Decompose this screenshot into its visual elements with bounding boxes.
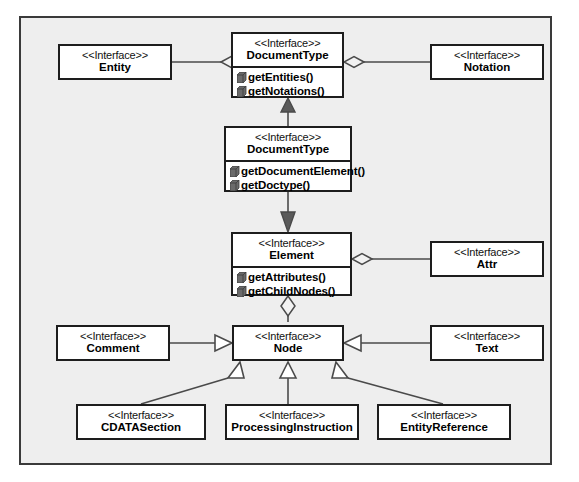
- operations-compartment-document: getDocumentElement() getDoctype(): [226, 162, 350, 196]
- operation-label: getDoctype(): [241, 179, 310, 193]
- class-box-entity[interactable]: <<Interface>> Entity: [58, 44, 172, 80]
- stereotype-label: <<Interface>>: [436, 246, 538, 258]
- method-box-icon: [237, 86, 247, 97]
- operation-row[interactable]: getChildNodes(): [237, 285, 348, 299]
- method-box-icon: [237, 286, 247, 297]
- class-header-processinginstruction: <<Interface>> ProcessingInstruction: [227, 406, 357, 438]
- stereotype-label: <<Interface>>: [383, 409, 505, 421]
- class-name-label: Attr: [436, 258, 538, 271]
- stereotype-label: <<Interface>>: [237, 237, 346, 249]
- class-header-notation: <<Interface>> Notation: [432, 46, 542, 78]
- class-header-entityreference: <<Interface>> EntityReference: [379, 406, 509, 438]
- class-name-label: Node: [238, 342, 338, 355]
- class-name-label: Entity: [64, 61, 166, 74]
- class-header-element: <<Interface>> Element: [233, 234, 350, 266]
- class-name-label: DocumentType: [230, 143, 346, 156]
- diagram-canvas: .ln { stroke:#4a4a4a; stroke-width:1.6; …: [0, 0, 579, 482]
- class-name-label: EntityReference: [383, 421, 505, 434]
- stereotype-label: <<Interface>>: [237, 37, 338, 49]
- operation-label: getDocumentElement(): [241, 165, 365, 179]
- operation-row[interactable]: getDoctype(): [230, 179, 348, 193]
- operations-compartment-documenttype-top: getEntities() getNotations(): [233, 68, 342, 102]
- method-box-icon: [237, 72, 247, 83]
- operation-label: getAttributes(): [248, 271, 326, 285]
- class-header-document: <<Interface>> DocumentType: [226, 128, 350, 160]
- stereotype-label: <<Interface>>: [82, 409, 200, 421]
- operation-label: getEntities(): [248, 71, 313, 85]
- class-header-cdatasection: <<Interface>> CDATASection: [78, 406, 204, 438]
- class-name-label: DocumentType: [237, 49, 338, 62]
- operation-label: getNotations(): [248, 85, 325, 99]
- class-box-element[interactable]: <<Interface>> Element getAttributes(): [231, 232, 352, 296]
- class-name-label: ProcessingInstruction: [231, 421, 353, 434]
- class-box-notation[interactable]: <<Interface>> Notation: [430, 44, 544, 80]
- class-header-attr: <<Interface>> Attr: [432, 243, 542, 275]
- operations-compartment-element: getAttributes() getChildNodes(): [233, 268, 350, 302]
- class-header-comment: <<Interface>> Comment: [58, 327, 168, 359]
- class-box-comment[interactable]: <<Interface>> Comment: [56, 325, 170, 361]
- stereotype-label: <<Interface>>: [62, 330, 164, 342]
- class-box-cdatasection[interactable]: <<Interface>> CDATASection: [76, 404, 206, 440]
- method-box-icon: [230, 180, 240, 191]
- stereotype-label: <<Interface>>: [238, 330, 338, 342]
- operation-row[interactable]: getDocumentElement(): [230, 165, 348, 179]
- operation-row[interactable]: getNotations(): [237, 85, 340, 99]
- method-box-icon: [230, 166, 240, 177]
- class-box-node[interactable]: <<Interface>> Node: [232, 325, 344, 361]
- class-name-label: Comment: [62, 342, 164, 355]
- class-box-documenttype-top[interactable]: <<Interface>> DocumentType getEntities(): [231, 32, 344, 98]
- class-name-label: CDATASection: [82, 421, 200, 434]
- class-box-document[interactable]: <<Interface>> DocumentType getDocumentEl…: [224, 126, 352, 192]
- class-box-processinginstruction[interactable]: <<Interface>> ProcessingInstruction: [225, 404, 359, 440]
- method-box-icon: [237, 272, 247, 283]
- stereotype-label: <<Interface>>: [436, 330, 538, 342]
- class-box-attr[interactable]: <<Interface>> Attr: [430, 241, 544, 277]
- stereotype-label: <<Interface>>: [230, 131, 346, 143]
- operation-row[interactable]: getAttributes(): [237, 271, 348, 285]
- class-header-entity: <<Interface>> Entity: [60, 46, 170, 78]
- class-name-label: Element: [237, 249, 346, 262]
- class-box-text[interactable]: <<Interface>> Text: [430, 325, 544, 361]
- class-header-text: <<Interface>> Text: [432, 327, 542, 359]
- operation-row[interactable]: getEntities(): [237, 71, 340, 85]
- operation-label: getChildNodes(): [248, 285, 335, 299]
- class-name-label: Notation: [436, 61, 538, 74]
- class-header-documenttype-top: <<Interface>> DocumentType: [233, 34, 342, 66]
- stereotype-label: <<Interface>>: [64, 49, 166, 61]
- stereotype-label: <<Interface>>: [436, 49, 538, 61]
- class-name-label: Text: [436, 342, 538, 355]
- stereotype-label: <<Interface>>: [231, 409, 353, 421]
- class-header-node: <<Interface>> Node: [234, 327, 342, 359]
- class-box-entityreference[interactable]: <<Interface>> EntityReference: [377, 404, 511, 440]
